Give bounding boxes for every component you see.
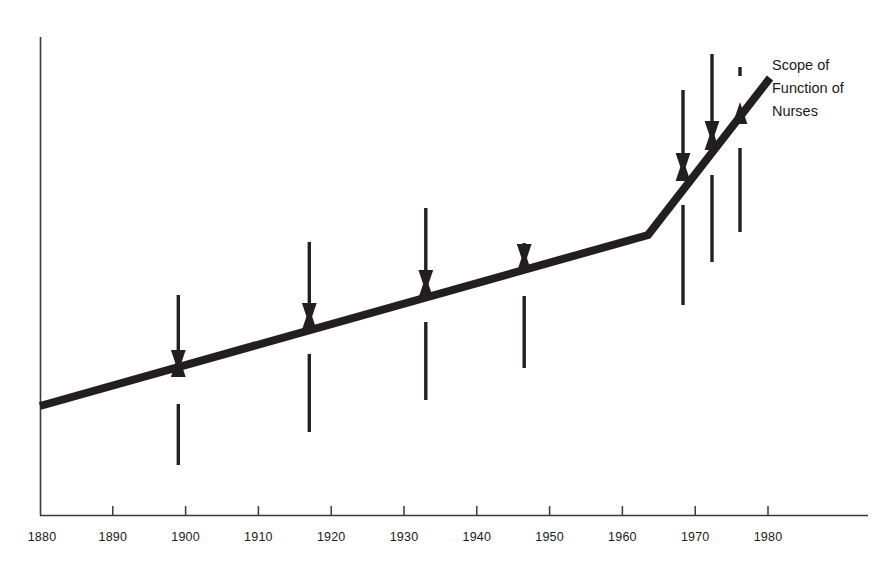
x-tick-label: 1940 xyxy=(462,530,491,544)
x-tick-label: 1980 xyxy=(754,530,783,544)
x-tick-label: 1900 xyxy=(171,530,200,544)
figure-root: 1880 1890 1900 1910 1920 1930 1940 1950 … xyxy=(0,0,895,563)
x-tick-label: 1960 xyxy=(608,530,637,544)
annotation-line-1: Scope of xyxy=(772,57,830,73)
x-tick-label: 1880 xyxy=(28,530,57,544)
scope-of-nurses-chart: 1880 1890 1900 1910 1920 1930 1940 1950 … xyxy=(0,0,895,563)
x-tick-label: 1890 xyxy=(98,530,127,544)
annotation-line-2: Function of xyxy=(772,80,845,96)
x-tick-label: 1950 xyxy=(535,530,564,544)
x-tick-label: 1920 xyxy=(317,530,346,544)
annotation-line-3: Nurses xyxy=(772,103,818,119)
x-tick-label: 1910 xyxy=(244,530,273,544)
x-tick-label: 1970 xyxy=(681,530,710,544)
x-tick-label: 1930 xyxy=(390,530,419,544)
